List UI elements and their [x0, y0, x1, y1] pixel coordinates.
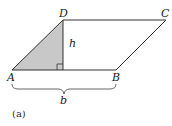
figure-caption: (a)	[12, 108, 26, 119]
vertex-label-d: D	[58, 7, 68, 20]
base-brace	[12, 84, 116, 94]
base-label: b	[60, 94, 67, 107]
vertex-label-a: A	[6, 71, 15, 84]
vertex-label-c: C	[161, 7, 170, 20]
vertex-label-b: B	[111, 71, 120, 84]
height-label: h	[69, 37, 76, 50]
parallelogram-diagram: A B C D h b (a)	[0, 0, 172, 126]
